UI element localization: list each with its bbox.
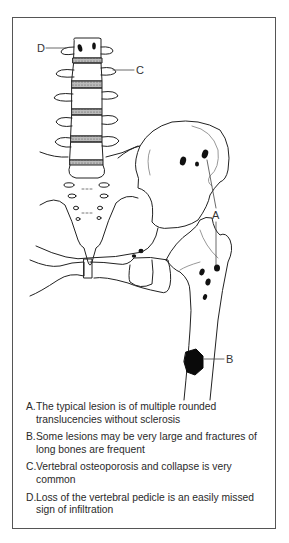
lumbar-spine — [40, 38, 138, 178]
legend-letter: C. — [26, 461, 36, 486]
legend-text: The typical lesion is of multiple rounde… — [36, 401, 271, 426]
pedicle-lesions — [77, 43, 96, 53]
legend-letter: B. — [26, 431, 36, 456]
callout-a: A — [212, 209, 220, 221]
legend-letter: A. — [26, 401, 36, 426]
ilium-lesions — [132, 149, 210, 258]
leader-lines — [46, 48, 224, 359]
legend-text: Loss of the vertebral pedicle is an easi… — [36, 492, 271, 517]
legend-item-d: D. Loss of the vertebral pedicle is an e… — [26, 492, 271, 517]
callout-b: B — [226, 353, 233, 365]
callout-c: C — [136, 64, 144, 76]
figure-legend: A. The typical lesion is of multiple rou… — [26, 401, 271, 522]
sacrum — [40, 183, 138, 265]
femur-lesions — [198, 265, 220, 301]
legend-item-a: A. The typical lesion is of multiple rou… — [26, 401, 271, 426]
femur — [166, 217, 232, 400]
legend-letter: D. — [26, 492, 36, 517]
legend-item-c: C. Vertebral osteoporosis and collapse i… — [26, 461, 271, 486]
legend-item-b: B. Some lesions may be very large and fr… — [26, 431, 271, 456]
legend-text: Vertebral osteoporosis and collapse is v… — [36, 461, 271, 486]
large-lesion-b — [184, 349, 203, 375]
legend-text: Some lesions may be very large and fract… — [36, 431, 271, 456]
pelvic-ring — [30, 228, 171, 296]
callout-d: D — [37, 42, 45, 54]
